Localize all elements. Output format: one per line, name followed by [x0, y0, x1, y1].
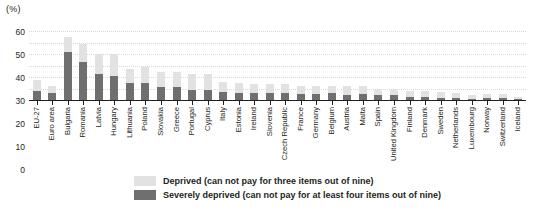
x-axis-label-slot: Netherlands [448, 101, 464, 161]
bar-segment-deprived [188, 74, 196, 90]
bar-stack [204, 31, 212, 100]
x-axis-label-slot: Greece [169, 101, 185, 161]
bar-slot [107, 31, 123, 100]
x-axis-label-slot: Germany [309, 101, 325, 161]
bar-segment-deprived [312, 86, 320, 94]
plot-area: 0102030405060 [29, 31, 526, 100]
x-axis-tick-label: Czech Republic [281, 107, 289, 160]
bar-segment-severely-deprived [188, 90, 196, 100]
bar-stack [266, 31, 274, 100]
deprivation-bar-chart: (%) 0102030405060 EU-27Euro areaBulgaria… [0, 0, 535, 215]
bar-stack [188, 31, 196, 100]
x-axis-label-slot: Luxembourg [464, 101, 480, 161]
bar-segment-deprived [266, 84, 274, 93]
bar-slot [60, 31, 76, 100]
bar-stack [250, 31, 258, 100]
x-axis-label-slot: Romania [76, 101, 92, 161]
bar-slot [138, 31, 154, 100]
x-axis-tick [68, 101, 69, 105]
x-axis-tick-label: Netherlands [452, 107, 460, 148]
x-axis-tick [487, 101, 488, 105]
x-axis-tick [301, 101, 302, 105]
bar-slot [29, 31, 45, 100]
bar-stack [452, 31, 460, 100]
x-axis-tick-label: Romania [80, 107, 88, 137]
bar-segment-deprived [79, 44, 87, 62]
x-axis-tick-label: Spain [375, 107, 383, 126]
bar-segment-deprived [64, 37, 72, 52]
x-axis-tick-label: Luxembourg [468, 107, 476, 149]
bar-segment-severely-deprived [126, 83, 134, 100]
y-axis-tick-label: 50 [16, 51, 25, 60]
x-axis-label-slot: Ireland [246, 101, 262, 161]
x-axis-tick-label: Iceland [514, 107, 522, 132]
x-axis-label-slot: Iceland [510, 101, 526, 161]
x-axis-tick [177, 101, 178, 105]
x-axis-tick-label: Bulgaria [64, 107, 72, 135]
bar-stack [173, 31, 181, 100]
x-axis-tick [378, 101, 379, 105]
x-axis-tick-label: Lithuania [126, 107, 134, 138]
bar-stack [421, 31, 429, 100]
bar-segment-severely-deprived [281, 93, 289, 100]
bar-stack [343, 31, 351, 100]
bar-segment-severely-deprived [110, 76, 118, 100]
bar-stack [48, 31, 56, 100]
bar-stack [483, 31, 491, 100]
x-axis-tick-label: Euro area [49, 107, 57, 140]
bar-slot [231, 31, 247, 100]
bar-stack [390, 31, 398, 100]
bar-segment-deprived [343, 86, 351, 95]
bar-segment-deprived [126, 69, 134, 83]
bar-segment-severely-deprived [48, 93, 56, 100]
bar-stack [359, 31, 367, 100]
x-axis-tick [130, 101, 131, 105]
bar-slot [433, 31, 449, 100]
bar-slot [340, 31, 356, 100]
x-axis-label-slot: Slovakia [153, 101, 169, 161]
x-axis-tick-label: Slovakia [157, 107, 165, 136]
x-axis-tick-label: Hungary [111, 107, 119, 136]
bar-slot [153, 31, 169, 100]
bar-stack [374, 31, 382, 100]
bar-stack [79, 31, 87, 100]
x-axis-label-slot: Poland [138, 101, 154, 161]
x-axis-tick-label: Poland [142, 107, 150, 131]
legend-swatch-deprived [134, 176, 156, 186]
x-axis-tick [145, 101, 146, 105]
bar-segment-deprived [235, 83, 243, 93]
bar-segment-severely-deprived [95, 74, 103, 100]
bar-slot [495, 31, 511, 100]
bar-segment-deprived [250, 84, 258, 93]
x-axis-tick [456, 101, 457, 105]
x-axis-label-slot: Norway [479, 101, 495, 161]
x-axis-label-slot: Lithuania [122, 101, 138, 161]
chart-legend: Deprived (can not pay for three items ou… [134, 176, 441, 200]
bar-stack [219, 31, 227, 100]
x-axis-labels: EU-27Euro areaBulgariaRomaniaLatviaHunga… [29, 101, 526, 161]
x-axis-label-slot: France [293, 101, 309, 161]
x-axis-tick-label: Sweden [437, 107, 445, 134]
x-axis-label-slot: Malta [355, 101, 371, 161]
bar-segment-deprived [281, 84, 289, 93]
bar-stack [437, 31, 445, 100]
bar-slot [293, 31, 309, 100]
bar-stack [281, 31, 289, 100]
bar-slot [200, 31, 216, 100]
bar-slot [448, 31, 464, 100]
x-axis-label-slot: Finland [402, 101, 418, 161]
bar-slot [278, 31, 294, 100]
x-axis-label-slot: EU-27 [29, 101, 45, 161]
x-axis-tick [503, 101, 504, 105]
x-axis-tick [99, 101, 100, 105]
x-axis-tick-label: Austria [344, 107, 352, 131]
x-axis-tick-label: Denmark [421, 107, 429, 138]
bar-slot [122, 31, 138, 100]
bar-segment-deprived [141, 67, 149, 83]
x-axis-tick [270, 101, 271, 105]
x-axis-tick-label: Italy [219, 107, 227, 121]
bar-series-container [29, 31, 526, 100]
bar-slot [184, 31, 200, 100]
x-axis-label-slot: Switzerland [495, 101, 511, 161]
x-axis-label-slot: Bulgaria [60, 101, 76, 161]
